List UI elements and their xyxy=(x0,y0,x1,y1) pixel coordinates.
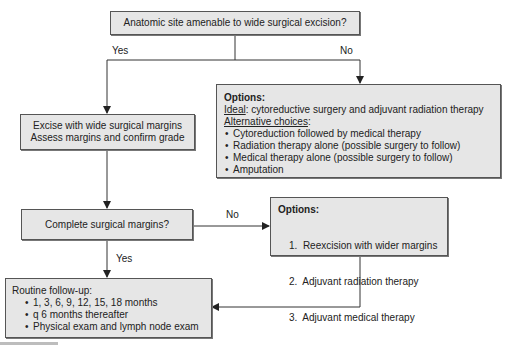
ideal-label: Ideal xyxy=(224,104,246,115)
node-site-amenable-question: Anatomic site amenable to wide surgical … xyxy=(110,11,360,35)
options-alternative: Alternative choices: xyxy=(224,116,500,128)
followup-list: 1, 3, 6, 9, 12, 15, 18 months q 6 months… xyxy=(12,297,211,333)
node-text-line2: Assess margins and confirm grade xyxy=(21,132,194,144)
node-text: Complete surgical margins? xyxy=(45,219,169,230)
node-text-line1: Excise with wide surgical margins xyxy=(21,120,194,132)
list-item: q 6 months thereafter xyxy=(24,309,211,321)
edge-label-no: No xyxy=(226,209,239,220)
list-item: 1, 3, 6, 9, 12, 15, 18 months xyxy=(24,297,211,309)
edge-label-yes: Yes xyxy=(116,253,132,264)
node-excise: Excise with wide surgical margins Assess… xyxy=(20,114,195,150)
followup-heading: Routine follow-up: xyxy=(12,285,211,297)
list-item: Amputation xyxy=(224,164,500,176)
options-ideal: Ideal: cytoreductive surgery and adjuvan… xyxy=(224,104,500,116)
list-item: Cytoreduction followed by medical therap… xyxy=(224,128,500,140)
options-heading: Options: xyxy=(224,92,500,104)
node-options-nonresectable: Options: Ideal: cytoreductive surgery an… xyxy=(216,84,501,178)
node-complete-margins-question: Complete surgical margins? xyxy=(21,209,193,240)
options-heading: Options: xyxy=(278,204,447,216)
list-item: 2. Adjuvant radiation therapy xyxy=(289,276,447,288)
node-text: Anatomic site amenable to wide surgical … xyxy=(124,17,347,28)
ideal-text: : cytoreductive surgery and adjuvant rad… xyxy=(246,104,484,115)
list-item: Physical exam and lymph node exam xyxy=(24,321,211,333)
node-routine-followup: Routine follow-up: 1, 3, 6, 9, 12, 15, 1… xyxy=(5,278,212,338)
list-item: Medical therapy alone (possible surgery … xyxy=(224,152,500,164)
options-list: 1. Reexcision with wider margins 2. Adju… xyxy=(278,216,447,345)
edge-label-yes: Yes xyxy=(112,45,128,56)
alternative-list: Cytoreduction followed by medical therap… xyxy=(224,128,500,176)
list-item: 1. Reexcision with wider margins xyxy=(289,240,447,252)
alternative-suffix: : xyxy=(308,116,311,127)
list-item: 3. Adjuvant medical therapy xyxy=(289,312,447,324)
alternative-label: Alternative choices xyxy=(224,116,308,127)
node-options-incomplete-margins: Options: 1. Reexcision with wider margin… xyxy=(270,197,448,256)
list-item: Radiation therapy alone (possible surger… xyxy=(224,140,500,152)
edge-label-no: No xyxy=(340,45,353,56)
